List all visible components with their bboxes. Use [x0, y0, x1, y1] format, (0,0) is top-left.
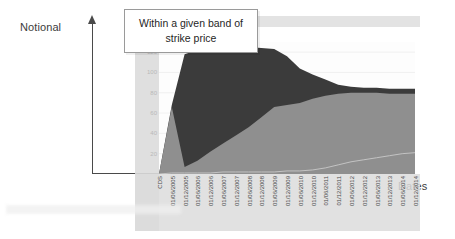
x-axis-tick: 01/06/2009	[272, 176, 278, 206]
x-axis-tick: 01/12/2008	[259, 176, 265, 206]
x-axis-tick-labels: CDS01/06/200501/12/200501/06/200601/12/2…	[159, 174, 417, 234]
x-axis-tick: 01/12/2010	[311, 176, 317, 206]
callout-box[interactable]: Within a given band of strike price	[124, 9, 258, 53]
y-axis-tick: 80	[150, 90, 157, 96]
slide-canvas: Notional Dates 12010080604020 CDS01/06/2…	[0, 0, 455, 239]
y-axis-tick: 40	[150, 130, 157, 136]
x-axis-tick: 01/06/2007	[221, 176, 227, 206]
x-axis-tick: 01/06/2011	[323, 176, 329, 206]
x-axis-tick: 01/12/2006	[208, 176, 214, 206]
x-axis-tick: 01/06/2013	[375, 176, 381, 206]
x-axis-tick: 01/12/2007	[234, 176, 240, 206]
notional-axis-line	[92, 22, 93, 174]
x-axis-tick: 01/06/2006	[195, 176, 201, 206]
x-axis-tick: 01/06/2012	[349, 176, 355, 206]
x-axis-tick: 01/12/2011	[336, 176, 342, 206]
notional-axis-label: Notional	[20, 21, 61, 33]
y-axis-tick: 100	[147, 69, 157, 75]
x-axis-tick: 01/06/2005	[170, 176, 176, 206]
x-axis-tick: 01/06/2008	[247, 176, 253, 206]
x-axis-tick: 01/06/2014	[400, 176, 406, 206]
x-axis-tick: 01/12/2014	[413, 176, 419, 206]
chart-legend-strip	[252, 16, 420, 27]
x-axis-tick: CDS	[157, 176, 163, 189]
area-chart-svg	[159, 42, 415, 174]
y-axis-tick: 20	[150, 151, 157, 157]
x-axis-tick: 01/12/2009	[285, 176, 291, 206]
y-axis-tick: 60	[150, 110, 157, 116]
x-axis-tick: 01/12/2005	[183, 176, 189, 206]
callout-text: Within a given band of strike price	[125, 16, 257, 46]
scan-artifact	[6, 205, 181, 214]
plot-area	[159, 42, 415, 174]
x-axis-tick: 01/06/2010	[298, 176, 304, 206]
x-axis-tick: 01/12/2012	[362, 176, 368, 206]
x-axis-tick: 01/12/2013	[387, 176, 393, 206]
